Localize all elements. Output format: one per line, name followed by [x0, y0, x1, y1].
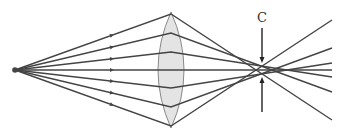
ray-direction-arrows	[109, 34, 114, 106]
lens-ray-diagram: C	[0, 0, 342, 140]
arrow-down-icon	[260, 57, 265, 63]
point-source-icon	[12, 67, 18, 73]
arrowhead-icon	[110, 68, 114, 72]
arrow-up-icon	[260, 77, 265, 83]
label-c: C	[257, 10, 267, 25]
diagram-canvas: C	[0, 0, 342, 140]
